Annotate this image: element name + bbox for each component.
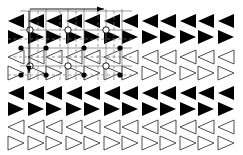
lattice-corner-node: [65, 27, 71, 33]
bowtie-array-figure: [0, 0, 243, 155]
lattice-center-node: [81, 45, 86, 50]
lattice-dashed-horizontal-lines: [8, 39, 132, 75]
lattice-center-node: [117, 72, 122, 77]
lattice-dashed-vertical-lines: [38, 11, 114, 80]
lattice-center-node: [43, 72, 48, 77]
lattice-corner-node: [27, 27, 33, 33]
lattice-corner-node: [65, 63, 71, 69]
lattice-center-nodes: [18, 45, 122, 77]
lattice-center-node: [18, 72, 23, 77]
lattice-corner-node: [103, 27, 109, 33]
lattice-center-node: [43, 45, 48, 50]
lattice-overlay-layer: [0, 0, 243, 155]
lattice-center-node: [18, 45, 23, 50]
lattice-center-node: [81, 72, 86, 77]
lattice-center-node: [117, 45, 122, 50]
lattice-corner-node: [103, 63, 109, 69]
